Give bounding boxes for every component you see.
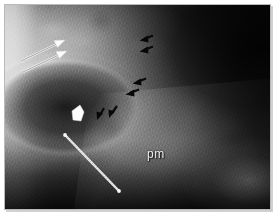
black-arrow-1-icon <box>140 36 154 43</box>
figure-root: pm <box>0 0 275 216</box>
annotation-vector-layer <box>5 5 270 209</box>
white-solid-arrowhead-icon <box>72 105 84 121</box>
black-arrow-4-icon <box>126 90 140 97</box>
white-arrow-lower-icon <box>23 51 67 72</box>
measurement-caliper-bar <box>63 133 121 193</box>
radiograph-frame: pm <box>4 4 271 210</box>
pm-anatomy-label: pm <box>147 148 165 160</box>
black-arrow-3-icon <box>133 79 147 86</box>
annotation-overlay: pm <box>5 5 270 209</box>
black-arrow-5-icon <box>109 106 118 118</box>
white-arrow-upper-icon <box>21 40 65 61</box>
black-arrow-2-icon <box>140 47 154 54</box>
black-arrow-6-icon <box>97 108 105 120</box>
